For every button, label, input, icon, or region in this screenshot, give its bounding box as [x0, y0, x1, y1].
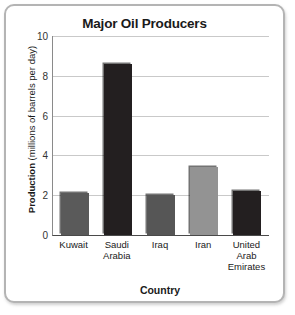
x-tick-label: United Arab Emirates [225, 239, 268, 272]
x-axis-title: Country [52, 284, 268, 296]
y-tick-label: 8 [42, 70, 48, 81]
x-tick-label: Saudi Arabia [95, 239, 138, 261]
y-tick-label: 4 [42, 150, 48, 161]
bar [61, 193, 89, 235]
y-tick-label: 10 [37, 31, 48, 42]
bar [190, 167, 218, 235]
bar-slot [183, 36, 226, 235]
plot-area: 0246810 [52, 36, 269, 236]
y-axis-title-rest: (millions of barrels per day) [26, 46, 37, 163]
chart-title: Major Oil Producers [6, 16, 283, 31]
x-axis-ticks: KuwaitSaudi ArabiaIraqIranUnited Arab Em… [52, 239, 268, 272]
y-axis-title-bold: Production [26, 163, 37, 213]
x-tick-label: Iran [182, 239, 225, 250]
bar-slot [226, 36, 269, 235]
bar-slot [139, 36, 182, 235]
chart-frame: Major Oil Producers Production (millions… [4, 4, 285, 303]
y-tick-label: 6 [42, 110, 48, 121]
x-tick-label: Kuwait [52, 239, 95, 250]
x-tick-label: Iraq [138, 239, 181, 250]
y-tick-label: 0 [42, 230, 48, 241]
bar [147, 195, 175, 235]
y-axis-title: Production (millions of barrels per day) [26, 35, 37, 225]
y-tick-label: 2 [42, 190, 48, 201]
bar [104, 64, 132, 235]
bar-slot [53, 36, 96, 235]
bar [233, 191, 261, 235]
bar-series [53, 36, 269, 235]
bar-slot [96, 36, 139, 235]
